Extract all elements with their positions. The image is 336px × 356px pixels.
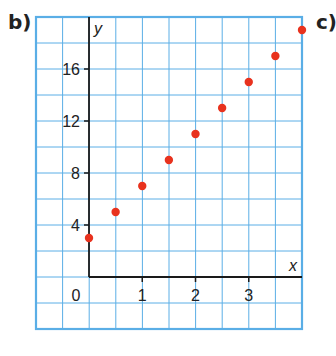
origin-label: 0 (72, 287, 81, 304)
x-tick-label: 1 (138, 287, 147, 304)
x-tick-label: 3 (244, 287, 253, 304)
y-tick-label: 8 (71, 165, 80, 182)
data-point (138, 182, 146, 190)
y-tick-label: 16 (62, 61, 80, 78)
data-point (191, 130, 199, 138)
data-point (271, 52, 279, 60)
y-tick-label: 12 (62, 113, 80, 130)
data-point (85, 234, 93, 242)
tick-labels: 1234812160yx (62, 20, 298, 304)
x-tick-label: 2 (191, 287, 200, 304)
y-tick-label: 4 (71, 217, 80, 234)
data-point (165, 156, 173, 164)
y-axis-label: y (93, 20, 103, 37)
axes (84, 17, 302, 282)
data-point (298, 26, 306, 34)
data-point (218, 104, 226, 112)
data-point (245, 78, 253, 86)
x-axis-label: x (288, 257, 298, 274)
data-point (111, 208, 119, 216)
scatter-chart: 1234812160yx (0, 0, 336, 356)
